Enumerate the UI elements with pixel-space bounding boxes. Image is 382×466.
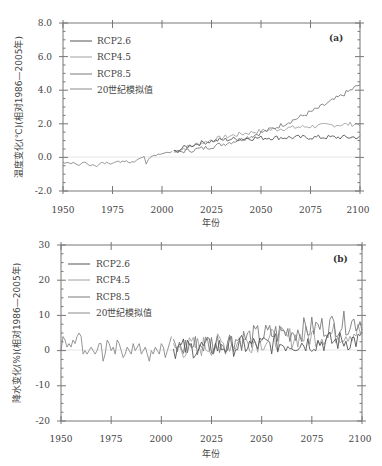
figure: 8.0 6.0 4.0 2.0 0.0 -2.0 1950 1975 2000 … [0,0,382,466]
y-tick-label: -20 [36,416,51,426]
legend-label: 20世纪模拟值 [97,84,153,95]
legend-label: RCP8.5 [97,69,131,79]
panel-a-ticks [59,20,364,194]
y-tick-label: 2.0 [38,119,53,129]
panel-b-precipitation-chart: 30 20 10 0 -10 -20 1950 1975 2000 2025 2… [11,240,372,459]
panel-b-ticks [57,242,366,424]
panel-a-x-tick-labels: 1950 1975 2000 2025 2050 2075 2100 [52,205,370,215]
y-tick-label: 4.0 [38,85,53,95]
y-tick-label: 8.0 [38,18,53,28]
series-line [174,135,360,152]
x-tick-label: 2075 [301,434,324,444]
x-tick-label: 1950 [52,205,75,215]
x-tick-label: 2100 [349,434,372,444]
panel-b-series [61,311,362,361]
y-tick-label: 6.0 [38,52,53,62]
x-tick-label: 2025 [200,205,223,215]
y-tick-label: 20 [39,275,51,285]
x-tick-label: 2100 [347,205,370,215]
panel-a-axes [63,23,360,191]
x-axis-title: 年份 [202,217,220,228]
x-tick-label: 2000 [150,434,173,444]
panel-b-y-tick-labels: 30 20 10 0 -10 -20 [36,240,51,426]
x-tick-label: 2075 [299,205,322,215]
y-tick-label: 30 [39,240,51,250]
series-line [173,311,362,355]
y-tick-label: 0.0 [38,152,53,162]
y-tick-label: -2.0 [35,186,53,196]
panel-b-x-tick-labels: 1950 1975 2000 2025 2050 2075 2100 [50,434,372,444]
panel-a-legend: RCP2.6 RCP4.5 RCP8.5 20世纪模拟值 [70,36,153,95]
x-tick-label: 1975 [101,205,124,215]
legend-label: RCP2.6 [96,259,130,269]
x-tick-label: 2025 [200,434,223,444]
x-tick-label: 2050 [250,434,273,444]
x-tick-label: 1950 [50,434,73,444]
x-tick-label: 2050 [250,205,273,215]
y-axis-title: 温度变化(℃)(相对1986—2005年) [13,36,24,178]
legend-label: 20世纪模拟值 [96,307,152,318]
panel-a-series [63,85,360,167]
y-axis-title: 降水变化(%)(相对1986—2005年) [11,263,22,403]
legend-label: RCP4.5 [96,275,130,285]
y-tick-label: 10 [39,310,51,320]
legend-label: RCP2.6 [97,36,131,46]
panel-label: (b) [333,254,348,264]
y-tick-label: -10 [36,380,51,390]
x-tick-label: 2000 [151,205,174,215]
y-tick-label: 0 [44,345,50,355]
panel-label: (a) [329,33,343,43]
series-line [61,333,171,361]
panel-a-temperature-chart: 8.0 6.0 4.0 2.0 0.0 -2.0 1950 1975 2000 … [13,18,370,228]
series-line [63,152,172,167]
panel-b-legend: RCP2.6 RCP4.5 RCP8.5 20世纪模拟值 [68,259,152,318]
panel-b-axes [61,245,362,421]
series-line [174,122,360,153]
legend-label: RCP4.5 [97,52,131,62]
x-axis-title: 年份 [202,448,220,459]
x-tick-label: 1975 [100,434,123,444]
legend-label: RCP8.5 [96,292,130,302]
panel-a-y-tick-labels: 8.0 6.0 4.0 2.0 0.0 -2.0 [35,18,53,196]
